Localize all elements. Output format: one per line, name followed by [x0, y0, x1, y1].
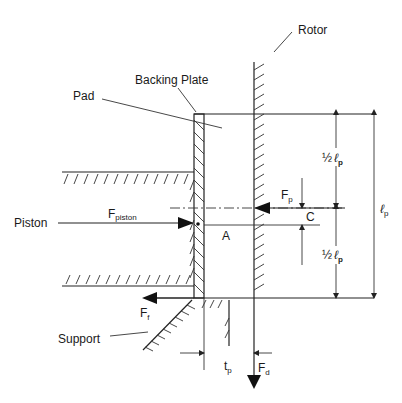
drag-force-arrowhead — [247, 375, 261, 389]
pad-label: Pad — [73, 89, 94, 103]
rotor — [254, 62, 264, 385]
brake-pad-diagram: Rotor — [0, 0, 402, 403]
backing-plate-leader — [178, 88, 196, 112]
rotor-leader — [274, 32, 292, 52]
friction-force-label: Ff — [140, 306, 150, 322]
backing-plate — [190, 114, 204, 298]
support-label: Support — [58, 332, 101, 346]
rotor-label: Rotor — [298, 23, 327, 37]
rotor-hatching — [254, 64, 264, 290]
backing-plate-label: Backing Plate — [135, 73, 209, 87]
pad-force-arrow — [254, 202, 345, 214]
thickness-label: tp — [224, 359, 232, 375]
upper-support — [62, 172, 194, 184]
point-a-marker — [196, 222, 200, 226]
friction-force-arrow — [142, 292, 194, 304]
pad-bottom-hatch — [202, 300, 229, 346]
point-c-label: C — [306, 210, 315, 224]
piston-force-label: Fpiston — [108, 207, 137, 222]
diagonal-support — [143, 300, 195, 351]
drag-force-label: Fd — [258, 361, 270, 377]
support-leader — [110, 332, 148, 336]
pad-force-label: Fp — [281, 188, 293, 204]
piston-label: Piston — [14, 216, 47, 230]
lower-support — [62, 275, 194, 286]
point-a-label: A — [222, 229, 230, 243]
